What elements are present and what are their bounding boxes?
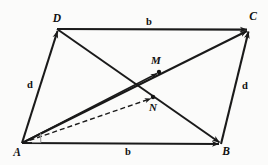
vector-AB	[22, 143, 219, 144]
vertex-label-C: C	[249, 11, 257, 23]
side-label-d-left: d	[27, 80, 33, 91]
vertex-label-A: A	[13, 147, 21, 159]
vector-DC	[57, 29, 247, 30]
point-label-N: N	[149, 102, 157, 113]
vector-AM	[22, 74, 157, 144]
diagonal-DB	[57, 29, 220, 143]
point-dot-M	[157, 70, 161, 74]
vector-AN-dashed	[22, 99, 151, 144]
geometry-figure: A B C D M N b b d d	[0, 0, 268, 165]
figure-canvas	[0, 0, 268, 165]
point-label-M: M	[151, 55, 161, 66]
side-label-d-right: d	[242, 81, 248, 92]
side-label-b-top: b	[146, 17, 152, 28]
vertex-label-B: B	[222, 146, 230, 158]
vertex-label-D: D	[53, 13, 61, 25]
side-label-b-bottom: b	[125, 147, 131, 158]
point-dot-N	[151, 95, 155, 99]
